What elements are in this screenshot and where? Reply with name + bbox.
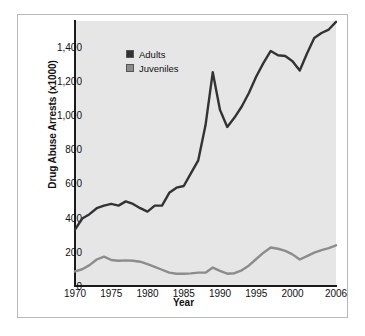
legend-label-adults: Adults — [139, 49, 165, 60]
y-tick-label: 800 — [22, 144, 82, 155]
legend-item-adults: Adults — [126, 48, 179, 60]
y-tick-label: 1,400 — [22, 41, 82, 52]
x-axis-line — [74, 285, 337, 287]
legend-item-juveniles: Juveniles — [126, 62, 179, 74]
y-tick-label: 400 — [22, 212, 82, 223]
x-tick-label: 2006 — [313, 288, 359, 299]
chart-legend: Adults Juveniles — [126, 48, 179, 76]
chart-figure-frame: Drug Abuse Arrests (x1000) Year 02004006… — [17, 14, 348, 318]
plot-area — [75, 21, 336, 286]
y-tick-label: 1,000 — [22, 110, 82, 121]
legend-swatch-juveniles — [126, 64, 134, 72]
y-tick-label: 1,200 — [22, 75, 82, 86]
y-tick-label: 200 — [22, 246, 82, 257]
x-tick-label: 2000 — [270, 288, 316, 299]
y-tick-label: 600 — [22, 178, 82, 189]
legend-label-juveniles: Juveniles — [139, 63, 179, 74]
legend-swatch-adults — [126, 50, 134, 58]
